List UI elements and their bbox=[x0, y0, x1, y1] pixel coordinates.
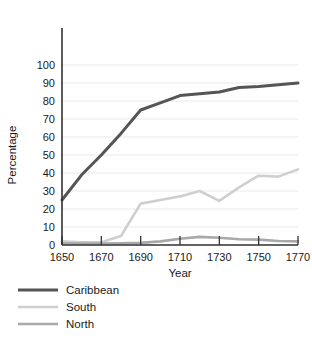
y-tick-label: 60 bbox=[43, 131, 55, 143]
y-tick-label: 70 bbox=[43, 113, 55, 125]
x-tick-label: 1690 bbox=[128, 251, 152, 263]
legend-label-north: North bbox=[66, 318, 94, 330]
legend: CaribbeanSouthNorth bbox=[18, 284, 119, 330]
series-line-south bbox=[62, 169, 298, 242]
y-tick-label: 80 bbox=[43, 95, 55, 107]
gridlines-group bbox=[62, 65, 298, 245]
y-tick-label: 100 bbox=[37, 59, 55, 71]
y-tick-labels-group: 0102030405060708090100 bbox=[37, 59, 55, 251]
x-tick-label: 1650 bbox=[50, 251, 74, 263]
x-axis-title: Year bbox=[168, 267, 191, 279]
chart-figure: 0102030405060708090100 16501670169017101… bbox=[0, 0, 312, 350]
x-tick-label: 1670 bbox=[89, 251, 113, 263]
x-tick-label: 1750 bbox=[246, 251, 270, 263]
legend-label-south: South bbox=[66, 301, 96, 313]
series-group bbox=[62, 83, 298, 244]
y-tick-label: 50 bbox=[43, 149, 55, 161]
y-tick-label: 90 bbox=[43, 77, 55, 89]
line-chart: 0102030405060708090100 16501670169017101… bbox=[0, 0, 312, 350]
y-tick-label: 20 bbox=[43, 203, 55, 215]
y-tick-label: 30 bbox=[43, 185, 55, 197]
y-axis-title: Percentage bbox=[6, 126, 18, 185]
x-tick-label: 1730 bbox=[207, 251, 231, 263]
y-tick-label: 0 bbox=[49, 239, 55, 251]
x-tick-label: 1710 bbox=[168, 251, 192, 263]
y-tick-label: 10 bbox=[43, 221, 55, 233]
y-tick-label: 40 bbox=[43, 167, 55, 179]
x-tick-label: 1770 bbox=[286, 251, 310, 263]
legend-label-caribbean: Caribbean bbox=[66, 284, 119, 296]
x-tick-labels-group: 1650167016901710173017501770 bbox=[50, 251, 310, 263]
series-line-caribbean bbox=[62, 83, 298, 200]
